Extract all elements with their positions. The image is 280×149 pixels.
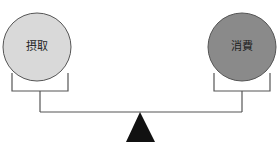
consumption-label: 消費 xyxy=(212,40,272,54)
balance-scale-graphic xyxy=(0,0,280,149)
balance-diagram: 摂取 消費 xyxy=(0,0,280,149)
intake-label: 摂取 xyxy=(7,40,67,54)
fulcrum-triangle xyxy=(126,112,155,142)
